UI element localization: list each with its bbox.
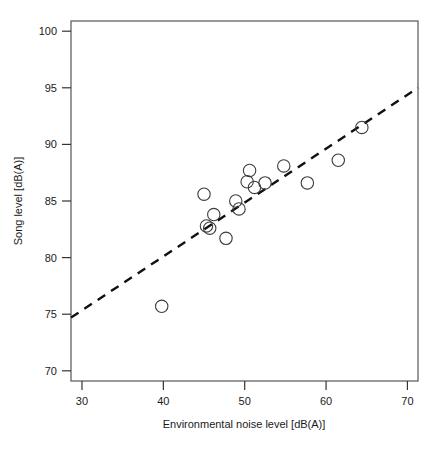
x-tick-label: 50 <box>239 395 251 407</box>
data-point-markers[interactable] <box>156 121 369 312</box>
y-tick-label: 90 <box>45 138 57 150</box>
x-tick-label: 70 <box>401 395 413 407</box>
y-tick-label: 80 <box>45 252 57 264</box>
x-axis-title: Environmental noise level [dB(A)] <box>163 418 326 430</box>
x-axis-tick-labels: 3040506070 <box>76 395 414 407</box>
y-tick-label: 70 <box>45 365 57 377</box>
y-tick-label: 100 <box>39 25 57 37</box>
data-point[interactable] <box>198 188 210 200</box>
y-axis-title: Song level [dB(A)] <box>12 157 24 246</box>
data-point[interactable] <box>208 208 220 220</box>
y-tick-label: 75 <box>45 308 57 320</box>
y-tick-label: 95 <box>45 82 57 94</box>
x-axis-tick-marks <box>82 381 407 390</box>
scatter-plot[interactable]: 707580859095100 3040506070 Environmental… <box>0 0 443 452</box>
x-tick-label: 30 <box>76 395 88 407</box>
data-point[interactable] <box>243 164 255 176</box>
data-point[interactable] <box>259 177 271 189</box>
figure-container: 707580859095100 3040506070 Environmental… <box>0 0 443 452</box>
data-point[interactable] <box>220 232 232 244</box>
data-point[interactable] <box>301 177 313 189</box>
y-axis-tick-marks <box>62 31 71 371</box>
data-point[interactable] <box>156 300 168 312</box>
plot-frame <box>71 21 418 381</box>
data-point[interactable] <box>332 154 344 166</box>
data-point[interactable] <box>230 195 242 207</box>
x-tick-label: 60 <box>320 395 332 407</box>
y-axis-tick-labels: 707580859095100 <box>39 25 57 377</box>
x-tick-label: 40 <box>157 395 169 407</box>
data-point[interactable] <box>278 160 290 172</box>
y-tick-label: 85 <box>45 195 57 207</box>
